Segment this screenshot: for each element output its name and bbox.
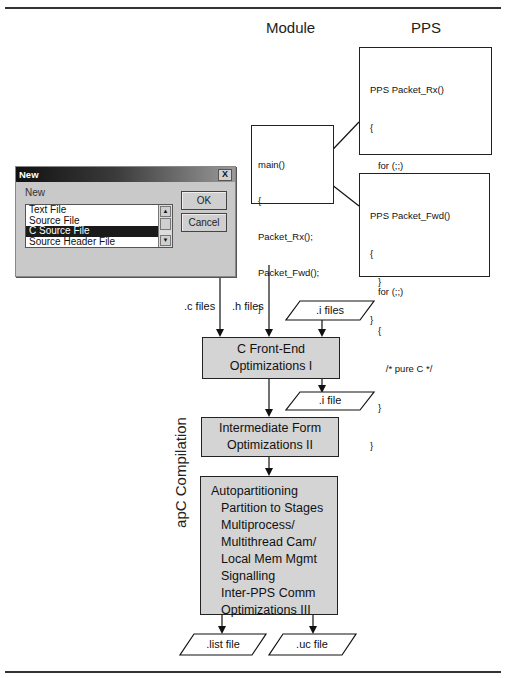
code-line: main(): [258, 159, 329, 171]
box-line: Multithread Cam/: [211, 534, 337, 551]
apc-compilation-label: apC Compilation: [172, 413, 189, 533]
close-button[interactable]: X: [218, 169, 232, 181]
box-line: Signalling: [211, 568, 337, 585]
box-line: Inter-PPS Comm: [211, 585, 337, 602]
box-line: Optimizations II: [202, 437, 338, 454]
code-line: {: [370, 325, 483, 338]
pps-rx-code-box: PPS Packet_Rx() { for (;;) { /* C, MSF i…: [359, 47, 492, 155]
dialog-title: New: [19, 169, 39, 180]
scroll-up-arrow-icon[interactable]: ▲: [160, 206, 171, 217]
scroll-thumb[interactable]: [160, 218, 171, 230]
new-file-dialog: New X New Text File Source File C Source…: [15, 166, 236, 277]
list-file-label: .list file: [188, 638, 258, 650]
box-line: Local Mem Mgmt: [211, 551, 337, 568]
code-line: PPS Packet_Fwd(): [370, 210, 483, 223]
code-line: {: [370, 122, 485, 135]
dialog-group-label: New: [25, 187, 45, 198]
code-line: {: [370, 248, 483, 261]
code-line: /* pure C */: [370, 363, 483, 376]
code-line: {: [258, 195, 329, 207]
code-line: Packet_Rx();: [258, 231, 329, 243]
code-line: }: [370, 402, 483, 415]
module-code-box: main() { Packet_Rx(); Packet_Fwd(); }: [251, 125, 334, 204]
c-front-end-box: C Front-End Optimizations I: [202, 337, 340, 379]
list-item-text-file[interactable]: Text File: [26, 205, 172, 216]
pps-fwd-code-box: PPS Packet_Fwd() { for (;;) { /* pure C …: [359, 173, 490, 277]
i-file-label: .i file: [300, 394, 360, 406]
box-line: C Front-End: [203, 341, 339, 358]
autopartitioning-box: Autopartitioning Partition to Stages Mul…: [200, 476, 338, 615]
close-icon: X: [222, 169, 228, 179]
box-line: Multiprocess/: [211, 517, 337, 534]
scroll-down-arrow-icon[interactable]: ▼: [160, 235, 171, 246]
code-line: }: [370, 440, 483, 453]
i-files-label: .i files: [300, 304, 360, 316]
cancel-button[interactable]: Cancel: [181, 213, 227, 232]
code-line: PPS Packet_Rx(): [370, 84, 485, 97]
box-line: Optimizations I: [203, 358, 339, 375]
code-line: for (;;): [370, 160, 485, 173]
file-type-listbox[interactable]: Text File Source File C Source File Sour…: [25, 204, 173, 248]
h-files-label: .h files: [232, 300, 264, 312]
box-title: Autopartitioning: [211, 483, 337, 500]
dialog-title-bar[interactable]: New X: [16, 167, 235, 182]
c-files-label: .c files: [184, 300, 215, 312]
listbox-scrollbar[interactable]: ▲ ▼: [158, 205, 172, 247]
box-line: Intermediate Form: [202, 420, 338, 437]
uc-file-label: .uc file: [277, 638, 347, 650]
list-item-source-header-file[interactable]: Source Header File: [26, 237, 172, 248]
ok-button[interactable]: OK: [181, 191, 227, 210]
code-line: for (;;): [370, 286, 483, 299]
list-item-c-source-file[interactable]: C Source File: [26, 226, 172, 237]
box-line: Optimizations III: [211, 602, 337, 619]
intermediate-form-box: Intermediate Form Optimizations II: [201, 417, 339, 457]
box-line: Partition to Stages: [211, 500, 337, 517]
code-line: Packet_Fwd();: [258, 267, 329, 279]
